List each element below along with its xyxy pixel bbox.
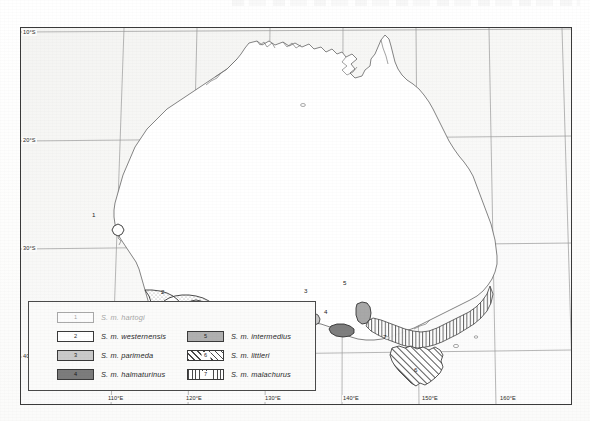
legend-swatch-number-4: 4: [74, 372, 77, 378]
lon-label-150e: 150°E: [421, 395, 439, 402]
legend-item-5: 5 S. m. intermedius: [187, 327, 291, 346]
lon-label-140e: 140°E: [342, 395, 360, 402]
scanned-page: 1 2 3 4 5 6 7 10°S 20°S 30°S 40°S 110°E …: [0, 0, 590, 421]
australia-mainland: [114, 35, 497, 340]
legend-swatch-5: 5: [187, 331, 224, 342]
legend-swatch-3: 3: [57, 350, 94, 361]
legend-item-4: 4 S. m. halmaturinus: [57, 365, 166, 384]
legend-swatch-7: 7: [187, 369, 224, 380]
legend-column-left: 1 S. m. hartogi 2 S. m. westernensis 3: [57, 308, 166, 384]
legend-label-3: S. m. parimeda: [101, 351, 153, 360]
legend-swatch-number-7: 7: [204, 372, 207, 378]
lon-label-160e: 160°E: [499, 395, 517, 402]
legend-label-6: S. m. littleri: [231, 351, 270, 360]
lon-label-120e: 120°E: [185, 395, 203, 402]
legend-swatch-number-6: 6: [204, 353, 207, 359]
legend-swatch-2: 2: [57, 331, 94, 342]
legend-label-1: S. m. hartogi: [101, 313, 145, 322]
lat-label-30s: 30°S: [22, 245, 37, 252]
legend-swatch-number-2: 2: [74, 334, 77, 340]
legend-label-4: S. m. halmaturinus: [101, 370, 165, 379]
legend-box: 1 S. m. hartogi 2 S. m. westernensis 3: [28, 301, 316, 391]
map-region-number-4: 4: [324, 309, 327, 315]
legend-item-3: 3 S. m. parimeda: [57, 346, 166, 365]
lat-label-20s: 20°S: [22, 137, 37, 144]
map-region-number-3: 3: [304, 288, 307, 294]
legend-swatch-number-5: 5: [204, 334, 207, 340]
lon-label-110e: 110°E: [107, 395, 124, 402]
legend-swatch-number-3: 3: [74, 353, 77, 359]
legend-swatch-1: 1: [57, 312, 94, 323]
map-frame: 1 2 3 4 5 6 7 10°S 20°S 30°S 40°S 110°E …: [20, 27, 572, 405]
map-region-number-7: 7: [383, 334, 386, 340]
legend-item-1: 1 S. m. hartogi: [57, 308, 166, 327]
legend-label-5: S. m. intermedius: [231, 332, 291, 341]
legend-column-right: 5 S. m. intermedius 6 S. m. littleri 7: [187, 327, 291, 384]
legend-label-2: S. m. westernensis: [101, 332, 166, 341]
region-1-hartogi: [112, 224, 124, 236]
cut-off-caption-artifact: [232, 0, 580, 6]
map-region-number-2: 2: [161, 289, 164, 295]
region-4-halmaturinus: [329, 324, 354, 337]
legend-item-7: 7 S. m. malachurus: [187, 365, 291, 384]
lat-label-10s: 10°S: [22, 29, 37, 36]
map-region-number-1: 1: [92, 212, 95, 218]
legend-swatch-4: 4: [57, 369, 94, 380]
lon-label-130e: 130°E: [264, 395, 282, 402]
legend-label-7: S. m. malachurus: [231, 370, 291, 379]
map-region-number-6: 6: [414, 367, 417, 373]
legend-swatch-6: 6: [187, 350, 224, 361]
legend-item-2: 2 S. m. westernensis: [57, 327, 166, 346]
legend-swatch-number-1: 1: [74, 315, 77, 321]
legend-item-6: 6 S. m. littleri: [187, 346, 291, 365]
map-region-number-5: 5: [343, 280, 346, 286]
